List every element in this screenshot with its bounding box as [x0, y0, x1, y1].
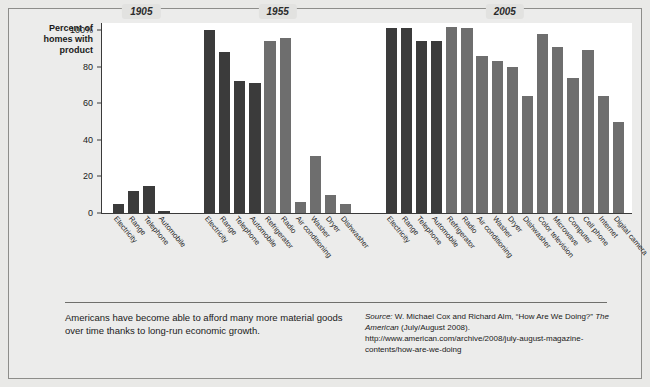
- y-tick-100: 100%: [70, 25, 102, 35]
- plot-area: 020406080100% 190519552005: [101, 23, 632, 214]
- bar-2005-radio: [461, 28, 472, 213]
- y-tick-label: 60: [83, 98, 93, 108]
- y-tick-label: 100%: [70, 25, 93, 35]
- y-tick-label: 80: [83, 62, 93, 72]
- bar-1955-range: [219, 52, 230, 213]
- bar-2005-digital-camera: [613, 122, 624, 213]
- bar-1905-telephone: [143, 186, 154, 213]
- bar-2005-air-conditioning: [476, 56, 487, 213]
- bar-series: [102, 23, 632, 213]
- bar-2005-internet: [598, 96, 609, 213]
- bar-2005-electricity: [386, 28, 397, 213]
- year-label-2005: 2005: [486, 4, 524, 19]
- bar-1955-electricity: [204, 30, 215, 213]
- bar-1955-washer: [310, 156, 321, 213]
- y-tick-80: 80: [83, 62, 102, 72]
- figure-page: Percent ofhomes withproduct 020406080100…: [0, 0, 650, 387]
- y-axis-title-line-2: product: [15, 45, 93, 56]
- year-label-1905: 1905: [122, 4, 160, 19]
- bar-2005-washer: [492, 61, 503, 213]
- caption-text: Americans have become able to afford man…: [65, 311, 343, 355]
- figure-frame: Percent ofhomes withproduct 020406080100…: [8, 8, 642, 379]
- y-tick-label: 0: [88, 208, 93, 218]
- y-axis-title-line-1: homes with: [15, 34, 93, 45]
- y-tick-40: 40: [83, 135, 102, 145]
- bar-2005-range: [401, 28, 412, 213]
- bar-1905-automobile: [158, 211, 169, 213]
- y-tick-label: 20: [83, 171, 93, 181]
- bar-2005-dryer: [507, 67, 518, 213]
- footer-divider: [65, 302, 607, 303]
- y-tick-label: 40: [83, 135, 93, 145]
- category-label-1955-dishwasher: Dishwasher: [339, 215, 370, 250]
- bar-1905-range: [128, 191, 139, 213]
- year-label-1955: 1955: [259, 4, 297, 19]
- bar-2005-computer: [567, 78, 578, 213]
- y-tick-20: 20: [83, 171, 102, 181]
- bar-2005-telephone: [416, 41, 427, 213]
- bar-2005-color-television: [537, 34, 548, 213]
- bar-1955-refrigerator: [264, 41, 275, 213]
- bar-2005-microwave: [552, 47, 563, 213]
- bar-1955-air-conditioning: [295, 202, 306, 213]
- bar-2005-dishwasher: [522, 96, 533, 213]
- bar-1955-dishwasher: [340, 204, 351, 213]
- y-tick-60: 60: [83, 98, 102, 108]
- bar-2005-automobile: [431, 41, 442, 213]
- bar-1955-dryer: [325, 195, 336, 213]
- source-label: Source:: [365, 312, 393, 321]
- bar-1905-electricity: [113, 204, 124, 213]
- y-tick-0: 0: [88, 208, 102, 218]
- bar-1955-automobile: [249, 83, 260, 213]
- source-authors: W. Michael Cox and Richard Alm, “How Are…: [393, 312, 596, 321]
- bar-1955-radio: [280, 38, 291, 213]
- bar-2005-refrigerator: [446, 27, 457, 213]
- bar-1955-telephone: [234, 81, 245, 213]
- footer: Americans have become able to afford man…: [65, 311, 621, 355]
- category-labels: ElectricityRangeTelephoneAutomobileElect…: [101, 215, 631, 295]
- bar-2005-cell-phone: [582, 50, 593, 213]
- source-text: Source: W. Michael Cox and Richard Alm, …: [365, 311, 621, 355]
